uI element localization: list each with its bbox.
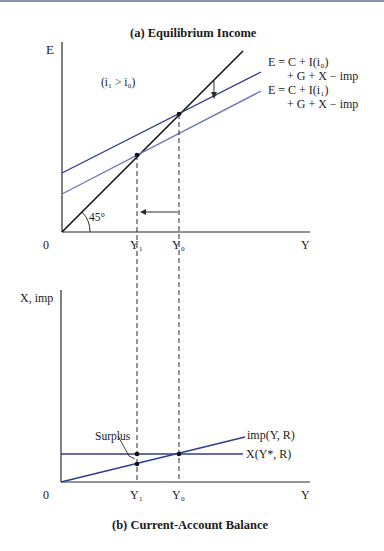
panel-a-y-axis-label: E <box>46 43 54 56</box>
panel-a-title: (a) Equilibrium Income <box>130 27 256 40</box>
panel-b-title: (b) Current-Account Balance <box>112 519 268 532</box>
left-arrow-icon <box>140 209 146 215</box>
import-point-y1 <box>135 462 140 467</box>
surplus-label: Surplus <box>95 431 130 443</box>
panel-b-x-axis-label: Y <box>301 489 310 501</box>
condition-label: (i₁ > i₀) <box>101 77 135 89</box>
panel-a-tick-y1: Y₁ <box>130 239 143 251</box>
curve-lower-label-line2: + G + X − imp <box>287 98 358 110</box>
panel-a-origin-label: 0 <box>43 239 49 251</box>
panel-a-tick-y0: Y₀ <box>172 239 185 251</box>
curve-upper-label-line1: E = C + I(i₀) <box>268 56 328 68</box>
panel-b-y-axis-label: X, imp <box>20 292 53 304</box>
expenditure-curve-i0 <box>62 72 261 173</box>
angle-label: 45° <box>89 212 105 224</box>
curve-upper-label-line2: + G + X − imp <box>287 70 358 82</box>
panel-b-tick-y0: Y₀ <box>172 489 185 501</box>
panel-b-tick-y1: Y₁ <box>130 489 143 501</box>
import-curve <box>61 437 245 482</box>
panel-a-x-axis-label: Y <box>301 239 310 251</box>
panel-b-origin-label: 0 <box>43 489 49 501</box>
export-curve-label: X(Y*, R) <box>246 448 291 460</box>
import-curve-label: imp(Y, R) <box>247 429 295 441</box>
export-point-y1 <box>135 452 140 457</box>
surplus-pointer-tick <box>129 456 135 459</box>
expenditure-curve-i1 <box>62 91 261 194</box>
balance-point-y0 <box>177 452 182 457</box>
line-45-degree <box>62 51 243 232</box>
curve-lower-label-line1: E = C + I(i₁) <box>268 84 328 96</box>
